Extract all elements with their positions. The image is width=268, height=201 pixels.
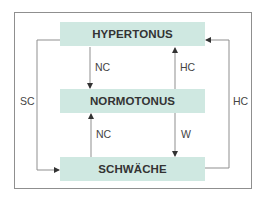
label-w: W xyxy=(181,129,191,140)
arrow-schwaeche-to-hyper xyxy=(205,40,229,168)
label-sc: SC xyxy=(20,96,35,107)
label-nc-top: NC xyxy=(95,62,110,73)
state-normotonus: NORMOTONUS xyxy=(60,89,205,113)
state-hypertonus: HYPERTONUS xyxy=(60,22,205,46)
label-hc-top: HC xyxy=(180,62,195,73)
state-schwaeche: SCHWÄCHE xyxy=(60,157,205,181)
arrow-hyper-to-schwaeche xyxy=(37,40,60,170)
label-nc-bottom: NC xyxy=(96,129,111,140)
label-hc-right: HC xyxy=(233,96,248,107)
